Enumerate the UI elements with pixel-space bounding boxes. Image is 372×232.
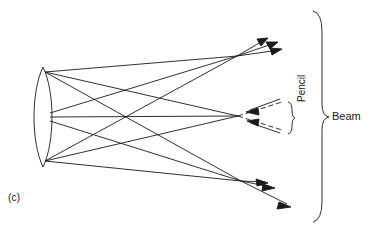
pencil-label: Pencil bbox=[296, 68, 307, 102]
pencil-bracket bbox=[288, 102, 295, 134]
ray-middle-to-upper bbox=[50, 56, 237, 113]
ray-middle-to-lower bbox=[50, 121, 241, 181]
ray-bundle-middle bbox=[50, 56, 241, 181]
pencil-bracket-curve bbox=[288, 102, 295, 134]
optical-ray-diagram bbox=[0, 0, 372, 232]
ray-bundle-top bbox=[45, 56, 241, 181]
ray-bottom-to-lower bbox=[45, 161, 241, 181]
panel-label: (c) bbox=[8, 192, 20, 203]
ray-top-to-central bbox=[45, 72, 238, 116]
lower-pencil bbox=[241, 179, 291, 209]
central-pencil-dashed-upper bbox=[238, 102, 282, 116]
ray-bundle-bottom bbox=[45, 56, 241, 181]
ray-middle-to-central bbox=[50, 116, 238, 117]
biconvex-lens bbox=[34, 67, 52, 167]
ray-bottom-to-upper bbox=[45, 56, 237, 161]
beam-bracket-curve bbox=[313, 11, 329, 222]
beam-label: Beam bbox=[332, 110, 361, 122]
ray-top-to-upper bbox=[45, 56, 237, 72]
lower-pencil-arrowhead-3 bbox=[277, 202, 291, 209]
beam-bracket bbox=[313, 11, 329, 222]
central-pencil bbox=[238, 99, 282, 133]
upper-pencil bbox=[237, 38, 282, 56]
lens-left-surface bbox=[34, 67, 43, 167]
lower-pencil-arrowhead-2 bbox=[262, 184, 275, 191]
central-pencil-ray-1 bbox=[250, 99, 280, 110]
ray-bottom-to-central bbox=[45, 116, 238, 161]
upper-pencil-arrowhead-3 bbox=[270, 48, 282, 55]
ray-top-to-lower bbox=[45, 72, 241, 181]
figure-panel: (c) Pencil Beam bbox=[0, 0, 372, 232]
central-pencil-dashed-lower bbox=[238, 116, 282, 130]
